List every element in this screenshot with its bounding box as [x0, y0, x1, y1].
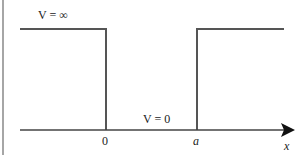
origin-tick-label: 0	[102, 134, 108, 148]
v-infinity-label: V = ∞	[38, 8, 68, 22]
well-width-tick-label: a	[193, 134, 199, 148]
infinite-square-well-diagram: V = ∞ V = 0 0 a x	[0, 0, 305, 155]
right-potential-wall	[197, 29, 284, 130]
x-axis-label: x	[283, 139, 290, 153]
left-potential-wall	[20, 29, 106, 130]
v-zero-label: V = 0	[143, 112, 170, 126]
